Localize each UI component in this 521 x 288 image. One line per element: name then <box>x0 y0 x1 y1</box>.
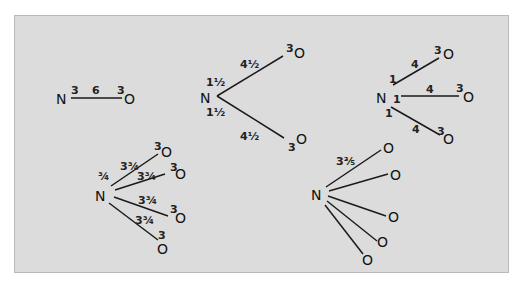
diagram-four-bonds: N ¾ 3¾ 3¾ 3¾ 3¾ 3 O 3 O 3 O 3 O <box>95 140 186 257</box>
oxygen-atom: O <box>124 91 135 107</box>
bond-line <box>328 196 386 216</box>
oxygen-atom: O <box>463 89 474 105</box>
bond-label: 3¾ <box>138 194 157 207</box>
bond-label: 4½ <box>240 58 259 71</box>
nitrogen-atom: N <box>200 90 210 106</box>
bond-label: 3⅗ <box>336 155 355 168</box>
n-share-label: 1 <box>385 107 393 120</box>
n-share-label: 1 <box>389 73 397 86</box>
oxygen-atom: O <box>443 46 454 62</box>
bond-label: 4½ <box>240 130 259 143</box>
bond-label: 6 <box>92 84 100 97</box>
nitrogen-atom: N <box>376 90 386 106</box>
oxygen-atom: O <box>383 140 394 156</box>
nitrogen-atom: N <box>311 187 321 203</box>
nitrogen-atom: N <box>56 91 66 107</box>
oxygen-atom: O <box>175 210 186 226</box>
oxygen-atom: O <box>377 234 388 250</box>
diagram-five-bonds: N 3⅗ O O O O O <box>311 140 401 268</box>
diagram-single-bond: N 3 6 3 O <box>56 84 135 107</box>
o-valence-label: 3 <box>434 44 442 57</box>
bond-label: 3¾ <box>135 214 154 227</box>
bond-line <box>327 201 377 241</box>
n-share-label: 1½ <box>206 76 225 89</box>
oxygen-atom: O <box>362 252 373 268</box>
oxygen-atom: O <box>161 144 172 160</box>
oxygen-atom: O <box>157 241 168 257</box>
bond-label: 4 <box>426 83 434 96</box>
oxygen-atom: O <box>296 131 307 147</box>
n-share-label: ¾ <box>98 170 109 183</box>
o-valence-label: 3 <box>286 42 294 55</box>
bond-line <box>325 205 363 254</box>
o-valence-label: 3 <box>288 141 296 154</box>
nitrogen-atom: N <box>95 188 105 204</box>
n-valence-label: 3 <box>71 84 79 97</box>
bond-line <box>329 174 388 191</box>
n-share-label: 1 <box>393 93 401 106</box>
oxygen-atom: O <box>175 166 186 182</box>
bond-label: 4 <box>411 58 419 71</box>
bond-diagram-canvas: N 3 6 3 O N 1½ 1½ 4½ 4½ 3 O 3 O N 1 1 1 … <box>0 0 521 288</box>
oxygen-atom: O <box>294 45 305 61</box>
oxygen-atom: O <box>390 167 401 183</box>
oxygen-atom: O <box>443 131 454 147</box>
diagram-three-bonds: N 1 1 1 4 4 4 3 O 3 O 3 O <box>376 44 474 147</box>
diagram-two-bonds: N 1½ 1½ 4½ 4½ 3 O 3 O <box>200 42 307 154</box>
bond-label: 4 <box>412 123 420 136</box>
n-share-label: 1½ <box>206 106 225 119</box>
bond-label: 3¾ <box>137 170 156 183</box>
oxygen-atom: O <box>388 209 399 225</box>
